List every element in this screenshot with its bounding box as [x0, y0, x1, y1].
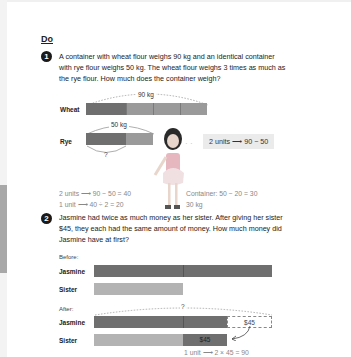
unit-divider [153, 103, 154, 115]
speech-dots: · · [185, 139, 193, 148]
wheat-total-label: 90 kg [136, 91, 156, 98]
wheat-units-rest [126, 103, 207, 115]
wheat-label: Wheat [60, 106, 80, 113]
after-label: After: [59, 306, 73, 312]
before-sister-label: Sister [59, 286, 77, 293]
unknown-brace-icon [86, 145, 130, 157]
before-sister-bar [94, 283, 183, 295]
unit-divider [126, 103, 127, 115]
before-jasmine-label: Jasmine [59, 268, 85, 275]
problem-1-line-1: A container with wheat flour weighs 90 k… [59, 51, 349, 62]
problem-2-line-3: Jasmine have at first? [59, 234, 349, 245]
top-divider [7, 0, 351, 2]
unit-divider [180, 103, 181, 115]
unit-divider [183, 265, 184, 277]
after-jasmine-label: Jasmine [59, 319, 85, 326]
rye-label: Rye [60, 138, 72, 145]
before-jasmine-bar [94, 265, 272, 277]
answer-1: 30 kg [186, 201, 203, 208]
after-sister-label: Sister [59, 337, 77, 344]
problem-1-line-2: with rye flour weighs 50 kg. The wheat f… [59, 62, 349, 73]
rye-bar [86, 133, 153, 145]
section-heading: Do [41, 34, 53, 44]
working-line-3: Container: 50 − 20 = 30 [186, 190, 257, 197]
rye-unit-2 [126, 133, 153, 145]
working-line-1: 2 units ⟶ 90 − 50 = 40 [59, 190, 131, 198]
callout-box: 2 units ⟶ 90 − 50 [203, 134, 274, 149]
unit-divider [183, 316, 184, 328]
after-jasmine-bar [94, 316, 227, 328]
after-unknown-label: ? [180, 303, 186, 310]
rye-unit-1 [86, 133, 126, 145]
rye-total-label: 50 kg [109, 121, 129, 128]
wheat-bar [86, 103, 207, 115]
working-line-p2: 1 unit ⟶ 2 × 45 = 90 [184, 349, 249, 357]
before-label: Before: [59, 254, 78, 260]
problem-1-number-badge: 1 [41, 51, 52, 62]
problem-2-line-1: Jasmine had twice as much money as her s… [59, 212, 349, 223]
transfer-arrow-icon [228, 325, 256, 341]
after-sister-bar [94, 334, 183, 346]
page-margin-strip [0, 0, 7, 357]
problem-2-number-badge: 2 [41, 213, 52, 224]
problem-2-text: Jasmine had twice as much money as her s… [59, 212, 349, 245]
wheat-unit-1 [86, 103, 126, 115]
page-side-tab [0, 185, 7, 273]
problem-1-line-3: the rye flour. How much does the contain… [59, 73, 349, 84]
problem-2-line-2: $45, they each had the same amount of mo… [59, 223, 349, 234]
received-amount-bar: $45 [183, 334, 227, 346]
working-line-2: 1 unit ⟶ 40 ÷ 2 = 20 [59, 201, 124, 209]
rye-unknown-label: ? [104, 151, 108, 158]
problem-1-text: A container with wheat flour weighs 90 k… [59, 51, 349, 84]
